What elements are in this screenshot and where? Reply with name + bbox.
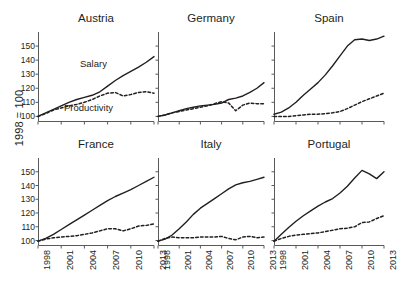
x-tick-label: 2010 xyxy=(134,250,144,270)
x-tick-label: 1998 xyxy=(278,250,288,270)
y-tick-label: 110 xyxy=(21,97,38,107)
panel-title: Italy xyxy=(158,138,264,150)
x-tick-label: 2007 xyxy=(225,250,235,270)
panel-spain: Spain xyxy=(274,12,384,122)
y-tick-label: 120 xyxy=(21,83,38,93)
x-tick-label: 2001 xyxy=(183,250,193,270)
y-tick-label: 140 xyxy=(21,55,38,65)
panel-italy: Italy 199820012004200720102013 xyxy=(158,138,264,248)
data-line-salary xyxy=(274,36,384,114)
plot-area: 199820012004200720102013 xyxy=(158,158,264,246)
axis-spine xyxy=(275,32,385,122)
panel-title: France xyxy=(38,138,154,150)
y-tick-label: 100 xyxy=(21,236,38,246)
data-line-productivity xyxy=(274,216,384,241)
panel-title: Austria xyxy=(38,12,154,24)
x-tick-label: 2010 xyxy=(246,250,256,270)
x-tick-label: 2007 xyxy=(344,250,354,270)
axis-spine xyxy=(159,32,265,122)
plot-area xyxy=(274,32,384,122)
y-tick-label: 120 xyxy=(21,208,38,218)
y-tick-label: 130 xyxy=(21,194,38,204)
plot-area: 199820012004200720102013 xyxy=(274,158,384,246)
y-tick-label: 140 xyxy=(21,181,38,191)
panel-austria: Austria 100110120130140150SalaryProducti… xyxy=(38,12,154,122)
data-line-productivity xyxy=(158,102,264,117)
x-tick-label: 2013 xyxy=(268,250,278,270)
y-tick-label: 110 xyxy=(21,222,38,232)
data-line-salary xyxy=(274,170,384,241)
panel-title: Germany xyxy=(158,12,264,24)
x-tick-label: 1998 xyxy=(162,250,172,270)
panel-france: France 100110120130140150199820012004200… xyxy=(38,138,154,248)
panel-title: Spain xyxy=(274,12,384,24)
y-tick-label: 150 xyxy=(21,41,38,51)
x-tick-label: 2001 xyxy=(65,250,75,270)
panel-portugal: Portugal 199820012004200720102013 xyxy=(274,138,384,248)
panel-germany: Germany xyxy=(158,12,264,122)
plot-area xyxy=(158,32,264,122)
panel-title: Portugal xyxy=(274,138,384,150)
y-tick-label: 150 xyxy=(21,167,38,177)
x-tick-label: 2010 xyxy=(366,250,376,270)
annotation-salary: Salary xyxy=(80,58,107,69)
x-tick-label: 2013 xyxy=(388,250,398,270)
data-line-salary xyxy=(158,83,264,117)
x-tick-label: 2004 xyxy=(322,250,332,270)
axis-spine xyxy=(275,158,385,246)
x-tick-label: 2004 xyxy=(204,250,214,270)
data-line-productivity xyxy=(274,93,384,116)
x-tick-label: 2004 xyxy=(88,250,98,270)
plot-area: 1001101201301401501998200120042007201020… xyxy=(38,158,154,246)
x-tick-label: 1998 xyxy=(42,250,52,270)
y-tick-label: 130 xyxy=(21,69,38,79)
x-tick-label: 2007 xyxy=(111,250,121,270)
data-line-salary xyxy=(158,177,264,241)
x-tick-label: 2001 xyxy=(300,250,310,270)
y-tick-label: 100 xyxy=(21,111,38,121)
data-line-productivity xyxy=(158,236,264,241)
plot-area: 100110120130140150SalaryProductivity xyxy=(38,32,154,122)
annotation-productivity: Productivity xyxy=(64,102,113,113)
